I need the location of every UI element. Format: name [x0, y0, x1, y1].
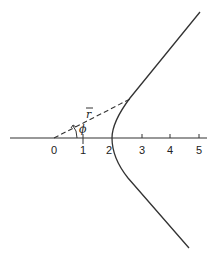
tick-label-4: 4: [167, 144, 173, 156]
hyperbola-curve: [112, 12, 200, 248]
tick-label-0: 0: [51, 144, 57, 156]
radius-label: r: [86, 108, 92, 121]
angle-label: ϕ: [79, 123, 87, 136]
tick-label-2: 2: [106, 144, 112, 156]
tick-label-5: 5: [196, 144, 202, 156]
radius-line: [54, 99, 130, 138]
axis-ticks: [83, 134, 199, 144]
diagram-canvas: 0 1 2 3 4 5 r ϕ: [0, 0, 213, 261]
tick-label-1: 1: [80, 144, 86, 156]
angle-arc: [73, 126, 77, 138]
tick-label-3: 3: [139, 144, 145, 156]
